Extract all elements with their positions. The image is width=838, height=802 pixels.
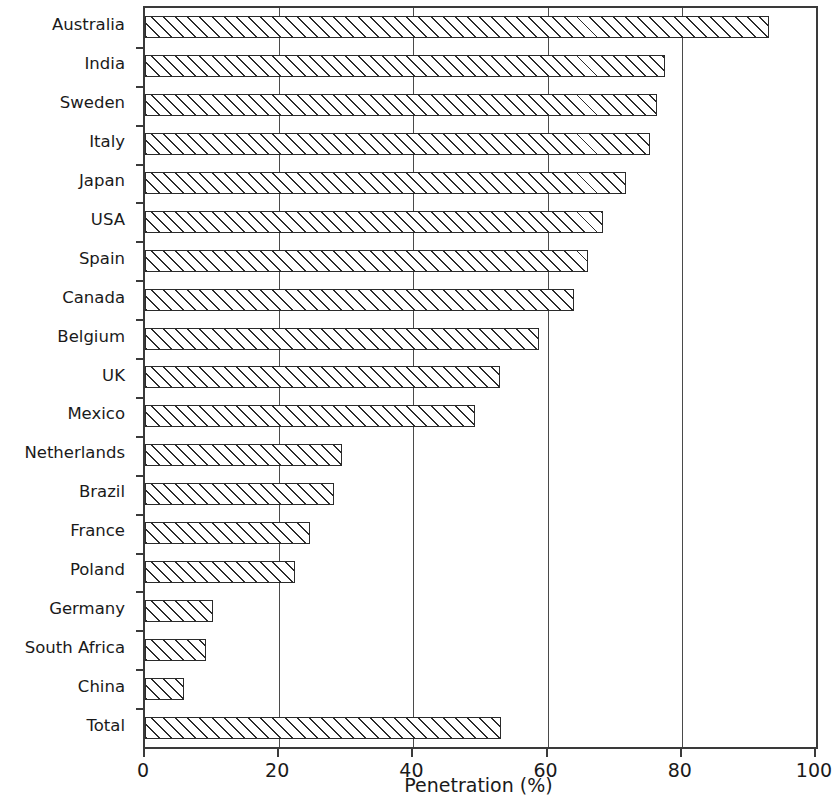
bar-row <box>145 358 816 397</box>
y-axis-tick <box>136 47 145 49</box>
y-axis-label-india: India <box>85 56 126 73</box>
y-axis-label-uk: UK <box>102 367 125 384</box>
bar-row <box>145 8 816 47</box>
bar <box>145 366 500 388</box>
y-axis-label-japan: Japan <box>79 173 125 190</box>
bar-row <box>145 514 816 553</box>
bar <box>145 717 501 739</box>
y-axis-tick <box>136 708 145 710</box>
y-axis-label-china: China <box>78 678 125 695</box>
y-axis-tick <box>136 553 145 555</box>
bar-row <box>145 125 816 164</box>
y-axis-category-labels: AustraliaIndiaSwedenItalyJapanUSASpainCa… <box>0 6 133 745</box>
bar <box>145 444 342 466</box>
y-axis-tick <box>136 630 145 632</box>
y-axis-label-usa: USA <box>91 212 125 229</box>
bar-row <box>145 591 816 630</box>
bar <box>145 328 539 350</box>
bar <box>145 600 213 622</box>
bar <box>145 289 574 311</box>
y-axis-label-spain: Spain <box>79 251 125 268</box>
bar <box>145 678 184 700</box>
y-axis-label-mexico: Mexico <box>67 406 125 423</box>
bar <box>145 211 603 233</box>
x-axis-tick-0 <box>143 747 145 757</box>
y-axis-label-belgium: Belgium <box>57 328 125 345</box>
bar-row <box>145 164 816 203</box>
y-axis-tick <box>136 241 145 243</box>
bar <box>145 561 295 583</box>
bar-row <box>145 397 816 436</box>
y-axis-tick <box>136 86 145 88</box>
bar <box>145 172 626 194</box>
x-axis-tick-80 <box>680 747 682 757</box>
y-axis-label-australia: Australia <box>52 17 125 34</box>
y-axis-tick <box>136 319 145 321</box>
bar-row <box>145 241 816 280</box>
y-axis-tick <box>136 280 145 282</box>
y-axis-label-sweden: Sweden <box>60 95 125 112</box>
bar-row <box>145 708 816 747</box>
bar <box>145 405 475 427</box>
y-axis-label-netherlands: Netherlands <box>24 445 125 462</box>
bar-row <box>145 436 816 475</box>
bar-row <box>145 202 816 241</box>
bar <box>145 250 588 272</box>
y-axis-label-total: Total <box>86 717 125 734</box>
plot-area <box>143 6 818 749</box>
bar-row <box>145 475 816 514</box>
bar-row <box>145 669 816 708</box>
y-axis-tick <box>136 164 145 166</box>
bar-row <box>145 319 816 358</box>
bar-row <box>145 86 816 125</box>
bar <box>145 522 310 544</box>
bar <box>145 639 206 661</box>
bar <box>145 133 650 155</box>
bar <box>145 55 665 77</box>
y-axis-tick <box>136 669 145 671</box>
bar-row <box>145 630 816 669</box>
y-axis-label-poland: Poland <box>70 562 125 579</box>
y-axis-tick <box>136 397 145 399</box>
bar <box>145 94 657 116</box>
y-axis-label-south-africa: South Africa <box>25 640 125 657</box>
y-axis-label-canada: Canada <box>62 289 125 306</box>
y-axis-label-germany: Germany <box>49 601 125 618</box>
y-axis-label-italy: Italy <box>89 134 125 151</box>
bar <box>145 16 769 38</box>
x-axis-tick-100 <box>814 747 816 757</box>
x-axis-tick-60 <box>546 747 548 757</box>
y-axis-tick <box>136 358 145 360</box>
y-axis-tick <box>136 436 145 438</box>
bar <box>145 483 334 505</box>
y-axis-tick <box>136 475 145 477</box>
y-axis-label-france: France <box>70 523 125 540</box>
y-axis-tick <box>136 125 145 127</box>
bar-chart: AustraliaIndiaSwedenItalyJapanUSASpainCa… <box>0 0 838 802</box>
bar-row <box>145 47 816 86</box>
x-axis-title: Penetration (%) <box>143 776 814 795</box>
bar-row <box>145 280 816 319</box>
x-axis-tick-40 <box>411 747 413 757</box>
bar-row <box>145 553 816 592</box>
y-axis-tick <box>136 202 145 204</box>
y-axis-tick <box>136 591 145 593</box>
x-axis-tick-20 <box>277 747 279 757</box>
y-axis-label-brazil: Brazil <box>79 484 125 501</box>
y-axis-tick <box>136 514 145 516</box>
